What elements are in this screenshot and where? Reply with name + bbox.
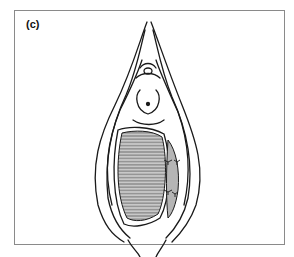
anatomical-illustration: [0, 0, 294, 257]
sutured-strip: [167, 140, 179, 218]
hatched-area: [118, 131, 166, 221]
